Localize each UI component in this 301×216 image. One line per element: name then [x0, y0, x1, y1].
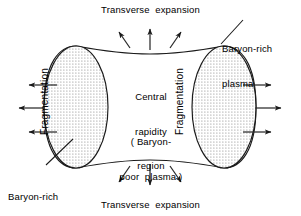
- label-fragmentation-left: Fragmentation: [39, 67, 50, 134]
- label-fragmentation-right: Fragmentation: [174, 67, 185, 134]
- arrow-top-right: [170, 32, 181, 48]
- left-ellipse: [44, 46, 108, 168]
- baryon-poor-line1: ( Baryon-: [108, 136, 194, 148]
- collision-geometry-diagram: Transverse expansion Transverse expansio…: [0, 0, 301, 216]
- baryon-rich-right-line1: Baryon-rich: [222, 43, 272, 55]
- baryon-rich-left-line1: Baryon-rich: [8, 191, 58, 203]
- arrow-top-left: [119, 32, 130, 48]
- baryon-rich-right-line2: plasma: [222, 78, 272, 90]
- fragmentation-region-left: [44, 46, 108, 168]
- label-baryon-rich-plasma-left: Baryon-rich plasma: [8, 168, 58, 216]
- top-expansion-arrows: [119, 29, 181, 50]
- label-transverse-expansion-top: Transverse expansion: [0, 4, 301, 16]
- label-baryon-rich-plasma-right: Baryon-rich plasma: [222, 20, 272, 112]
- baryon-poor-line2: poor plasma ): [108, 171, 194, 183]
